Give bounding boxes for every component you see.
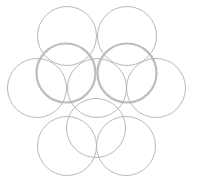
circle-rosette-diagram <box>0 0 199 180</box>
background <box>0 0 199 180</box>
